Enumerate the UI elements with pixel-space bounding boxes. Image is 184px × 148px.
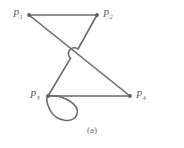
figure-panel: P1 P2 P3 P4 (a)	[0, 0, 184, 148]
node-label-p1-subscript: 1	[19, 13, 22, 20]
node-p3	[46, 94, 50, 98]
node-p1	[27, 13, 31, 17]
node-label-p1: P1	[13, 9, 22, 19]
node-label-p4: P4	[136, 90, 145, 100]
edge-p2-p3-with-hop	[48, 15, 97, 96]
node-label-p4-subscript: 4	[142, 94, 145, 101]
edge-p1-p4	[29, 15, 130, 96]
figure-caption: (a)	[0, 126, 184, 135]
node-label-p3: P3	[30, 90, 39, 100]
node-label-p2-subscript: 2	[109, 13, 112, 20]
node-p4	[128, 94, 132, 98]
node-label-p3-subscript: 3	[36, 94, 39, 101]
node-label-p2: P2	[103, 9, 112, 19]
node-p2	[95, 13, 99, 17]
edge-p3-self-loop	[47, 96, 78, 121]
